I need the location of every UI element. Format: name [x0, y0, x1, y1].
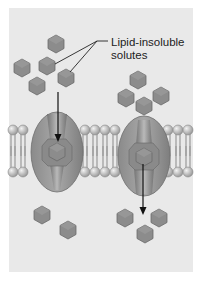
- solutes-label: Lipid-insoluble solutes: [111, 36, 185, 62]
- channel-protein-left: [31, 112, 83, 192]
- solutes-intracellular: [34, 206, 167, 243]
- channel-protein-right: [118, 116, 170, 196]
